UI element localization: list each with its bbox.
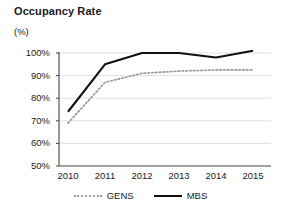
- y-tick-label-50: 50%: [8, 160, 50, 171]
- legend-label-gens: GENS: [107, 190, 134, 201]
- series-line-gens: [68, 70, 253, 123]
- y-tick-label-60: 60%: [8, 137, 50, 148]
- x-tick-label-2011: 2011: [87, 170, 123, 181]
- y-tick-label-70: 70%: [8, 115, 50, 126]
- x-tick-label-2015: 2015: [235, 170, 271, 181]
- chart-legend: GENS MBS: [0, 190, 281, 201]
- solid-line-swatch-icon: [154, 192, 182, 200]
- series-line-mbs: [68, 51, 253, 112]
- legend-item-mbs: MBS: [154, 190, 208, 201]
- occupancy-rate-chart: Occupancy Rate (%) 100%: [0, 0, 281, 211]
- x-tick-label-2012: 2012: [124, 170, 160, 181]
- y-tick-label-80: 80%: [8, 92, 50, 103]
- legend-item-gens: GENS: [74, 190, 134, 201]
- x-tick-label-2013: 2013: [161, 170, 197, 181]
- x-tick-label-2010: 2010: [50, 170, 86, 181]
- x-tick-label-2014: 2014: [198, 170, 234, 181]
- y-tick-label-100: 100%: [8, 47, 50, 58]
- dotted-line-swatch-icon: [74, 192, 102, 200]
- y-tick-label-90: 90%: [8, 70, 50, 81]
- legend-label-mbs: MBS: [187, 190, 208, 201]
